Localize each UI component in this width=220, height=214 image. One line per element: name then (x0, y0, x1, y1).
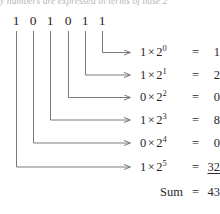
equation-exponent-5: 5 (163, 157, 167, 167)
equation-product-4: 0 (202, 135, 220, 152)
multiply-sign-4: × (146, 136, 156, 150)
sum-label: Sum (160, 184, 183, 201)
connector-bit-2-4 (34, 31, 131, 143)
equation-expression-0: 1×20 (140, 44, 167, 61)
multiply-sign-1: × (146, 68, 156, 82)
sum-equals-sign: = (192, 184, 199, 201)
equation-expression-5: 1×25 (140, 159, 167, 176)
binary-expansion-figure: y numbers are expressed in terms of base… (0, 0, 220, 214)
connector-bit-2-3 (51, 31, 131, 120)
equals-sign-1: = (192, 67, 199, 84)
sum-value: 43 (202, 184, 220, 201)
equation-expression-4: 0×24 (140, 135, 167, 152)
equation-expression-1: 1×21 (140, 67, 167, 84)
multiply-sign-2: × (146, 90, 156, 104)
equation-product-1: 2 (202, 67, 220, 84)
equals-sign-5: = (192, 159, 199, 176)
equation-product-0: 1 (202, 44, 220, 61)
equation-expression-2: 0×22 (140, 89, 167, 106)
connector-bit-2-2 (69, 31, 131, 98)
connector-bit-2-0 (103, 31, 131, 53)
equation-exponent-2: 2 (163, 88, 167, 98)
equals-sign-4: = (192, 135, 199, 152)
equation-product-5: 32 (202, 159, 220, 176)
equation-exponent-3: 3 (163, 110, 167, 120)
equation-exponent-4: 4 (163, 133, 167, 143)
equation-expression-3: 1×23 (140, 112, 167, 129)
equation-exponent-1: 1 (163, 65, 167, 75)
equation-product-3: 8 (202, 112, 220, 129)
connector-bit-2-1 (86, 31, 131, 75)
equals-sign-0: = (192, 44, 199, 61)
equation-exponent-0: 0 (163, 43, 167, 53)
multiply-sign-5: × (146, 160, 156, 174)
multiply-sign-3: × (146, 113, 156, 127)
equals-sign-2: = (192, 89, 199, 106)
connector-lines (0, 0, 220, 214)
multiply-sign-0: × (146, 45, 156, 59)
equals-sign-3: = (192, 112, 199, 129)
equation-product-2: 0 (202, 89, 220, 106)
